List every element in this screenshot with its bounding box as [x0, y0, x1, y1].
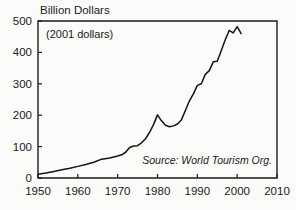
x-tick-label: 2010	[264, 185, 290, 197]
y-tick-label: 100	[13, 141, 32, 153]
y-tick-label: 400	[13, 46, 32, 58]
currency-note: (2001 dollars)	[46, 28, 113, 40]
y-axis-tick-labels: 0100200300400500	[13, 15, 32, 184]
chart-figure: 0100200300400500 19501960197019801990200…	[0, 0, 296, 210]
x-tick-label: 1980	[145, 185, 171, 197]
x-axis-tick-labels: 1950196019701980199020002010	[25, 185, 290, 197]
x-tick-label: 1960	[65, 185, 91, 197]
line-chart: 0100200300400500 19501960197019801990200…	[0, 0, 296, 210]
x-tick-label: 1990	[185, 185, 211, 197]
x-tick-label: 1950	[25, 185, 51, 197]
y-tick-label: 200	[13, 109, 32, 121]
data-series-line	[38, 27, 241, 175]
chart-title: Billion Dollars	[40, 4, 110, 16]
y-tick-label: 300	[13, 78, 32, 90]
source-note: Source: World Tourism Org.	[142, 154, 272, 166]
x-tick-label: 1970	[105, 185, 131, 197]
y-tick-label: 0	[26, 172, 32, 184]
y-tick-label: 500	[13, 15, 32, 27]
x-tick-label: 2000	[224, 185, 250, 197]
